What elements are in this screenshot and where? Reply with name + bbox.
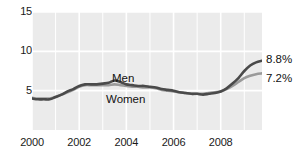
series-label-men: Men [112, 72, 134, 84]
plot-area [32, 12, 262, 130]
grid-lines [32, 12, 262, 130]
y-axis-tick-5: 5 [6, 84, 32, 96]
unemployment-rate-chart: Unemployment Rate by Gender 15 10 5 2000… [0, 0, 298, 165]
plot-canvas [32, 12, 262, 130]
x-axis-tick-2004: 2004 [104, 136, 148, 148]
x-axis-tick-2008: 2008 [199, 136, 243, 148]
x-axis-tick-2000: 2000 [10, 136, 54, 148]
series-label-women: Women [106, 93, 145, 105]
y-axis-tick-15: 15 [6, 5, 32, 17]
y-axis-tick-10: 10 [6, 44, 32, 56]
end-value-men: 8.8% [266, 53, 292, 65]
x-axis-tick-2006: 2006 [152, 136, 196, 148]
end-value-women: 7.2% [266, 72, 292, 84]
series-lines [32, 61, 262, 100]
x-axis-tick-2002: 2002 [57, 136, 101, 148]
